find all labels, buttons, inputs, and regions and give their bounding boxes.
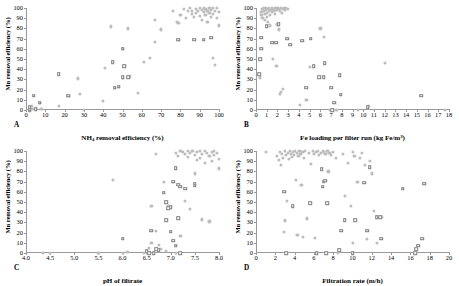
panel-a-data-point-circle bbox=[57, 104, 60, 107]
panel-a-data-point-circle bbox=[212, 13, 215, 16]
panel-d-y-tick bbox=[254, 212, 257, 213]
panel-a-data-point-circle bbox=[148, 56, 151, 59]
panel-c-x-tick-label: 6.5 bbox=[143, 255, 151, 261]
panel-a-x-tick-label: 100 bbox=[214, 112, 224, 118]
panel-d-data-point-square bbox=[326, 201, 330, 205]
panel-b-y-axis-label: Mn removal efficiency (%) bbox=[232, 6, 243, 102]
panel-b-data-point-square bbox=[289, 43, 293, 47]
panel-b-x-tick-label: 17 bbox=[435, 112, 441, 118]
panel-a-y-tick-label: 30 bbox=[17, 76, 23, 82]
panel-b-y-tick bbox=[254, 69, 257, 70]
panel-d-data-point-circle bbox=[327, 170, 330, 173]
panel-a-data-point-circle bbox=[215, 17, 218, 20]
panel-c-x-tick-label: 8.0 bbox=[215, 255, 223, 261]
panel-b-y-tick bbox=[254, 100, 257, 101]
panel-d-data-point-circle bbox=[365, 237, 368, 240]
panel-c-data-point-square bbox=[179, 251, 183, 255]
panel-a-data-point-square bbox=[38, 101, 42, 105]
panel-b-y-tick bbox=[254, 79, 257, 80]
panel-a-x-tick-label: 20 bbox=[61, 112, 67, 118]
panel-c-data-point-circle bbox=[162, 180, 165, 183]
panel-a-data-point-circle bbox=[77, 77, 80, 80]
panel-a-data-point-square bbox=[111, 60, 115, 64]
panel-b: Mn removal efficiency (%) 01020304050607… bbox=[230, 0, 459, 143]
panel-a-data-point-square bbox=[117, 85, 121, 89]
panel-a-data-point-circle bbox=[171, 9, 174, 12]
panel-c-y-tick-label: 60 bbox=[17, 189, 23, 195]
panel-b-x-tick-label: 13 bbox=[392, 112, 398, 118]
panel-c-y-tick bbox=[24, 212, 27, 213]
panel-b-x-tick-label: 9 bbox=[351, 112, 354, 118]
panel-a-data-point-circle bbox=[78, 92, 81, 95]
panel-d-data-point-square bbox=[351, 251, 355, 255]
panel-b-x-tick-label: 15 bbox=[414, 112, 420, 118]
panel-b-data-point-circle bbox=[268, 24, 271, 27]
panel-c-data-point-circle bbox=[191, 149, 194, 152]
panel-a-data-point-circle bbox=[215, 6, 218, 9]
panel-a-y-tick-label: 100 bbox=[13, 5, 23, 11]
panel-d-data-point-circle bbox=[361, 151, 364, 154]
panel-a-y-axis-label: Mn removal efficiency (%) bbox=[2, 6, 13, 102]
panel-d-data-point-square bbox=[422, 182, 426, 186]
panel-d-y-tick-label: 50 bbox=[247, 199, 253, 205]
panel-d-y-tick bbox=[254, 161, 257, 162]
panel-a-data-point-circle bbox=[109, 25, 112, 28]
panel-a-data-point-circle bbox=[102, 99, 105, 102]
panel-d-data-point-circle bbox=[285, 199, 288, 202]
panel-c-data-point-circle bbox=[186, 156, 189, 159]
panel-a-data-point-circle bbox=[154, 19, 157, 22]
panel-a-y-tick bbox=[24, 69, 27, 70]
panel-b-y-tick bbox=[254, 28, 257, 29]
panel-c-y-tick-label: 30 bbox=[17, 219, 23, 225]
panel-c-data-point-circle bbox=[193, 172, 196, 175]
panel-a-data-point-square bbox=[121, 47, 125, 51]
panel-b-data-point-circle bbox=[272, 57, 275, 60]
panel-d-data-point-circle bbox=[280, 152, 283, 155]
panel-d-data-point-circle bbox=[335, 157, 338, 160]
panel-b-y-tick-label: 40 bbox=[247, 66, 253, 72]
panel-c-data-point-circle bbox=[155, 152, 158, 155]
panel-a-data-point-circle bbox=[154, 40, 157, 43]
panel-c-y-tick bbox=[24, 202, 27, 203]
panel-c-x-axis-label: pH of filtrate bbox=[18, 277, 227, 285]
panel-d-y-tick-label: 0 bbox=[250, 250, 253, 256]
panel-d-data-point-circle bbox=[281, 157, 284, 160]
panel-c-data-point-square bbox=[169, 230, 173, 234]
panel-a-y-tick-label: 60 bbox=[17, 46, 23, 52]
panel-c-y-tick bbox=[24, 192, 27, 193]
panel-d-data-point-circle bbox=[304, 149, 307, 152]
panel-b-data-point-square bbox=[305, 86, 309, 90]
panel-c-y-tick bbox=[24, 171, 27, 172]
panel-b-x-tick-label: 1 bbox=[265, 112, 268, 118]
panel-c-data-point-circle bbox=[208, 220, 211, 223]
panel-c-data-point-circle bbox=[215, 151, 218, 154]
panel-d-data-point-square bbox=[420, 237, 424, 241]
panel-c-y-tick-label: 80 bbox=[17, 168, 23, 174]
panel-b-data-point-square bbox=[339, 93, 343, 97]
panel-d-y-tick bbox=[254, 243, 257, 244]
panel-b-x-tick-label: 8 bbox=[340, 112, 343, 118]
panel-b-data-point-square bbox=[270, 41, 274, 45]
panel-d-data-point-square bbox=[308, 201, 312, 205]
panel-c-data-point-square bbox=[171, 239, 175, 243]
panel-b-y-tick bbox=[254, 18, 257, 19]
panel-c-data-point-square bbox=[147, 251, 151, 255]
panel-a-y-tick bbox=[24, 59, 27, 60]
panel-d-y-tick bbox=[254, 192, 257, 193]
panel-b-y-tick bbox=[254, 49, 257, 50]
panel-d-data-point-circle bbox=[343, 194, 346, 197]
panel-b-data-point-square bbox=[260, 36, 264, 40]
panel-a-data-point-square bbox=[209, 36, 213, 40]
panel-d-data-point-circle bbox=[363, 164, 366, 167]
panel-c-y-tick-label: 40 bbox=[17, 209, 23, 215]
panel-c-data-point-circle bbox=[179, 234, 182, 237]
panel-b-data-point-square bbox=[300, 39, 304, 43]
panel-b-data-point-square bbox=[277, 23, 281, 27]
panel-a-y-tick-label: 0 bbox=[20, 107, 23, 113]
panel-a-data-point-circle bbox=[136, 91, 139, 94]
panel-c-y-tick bbox=[24, 151, 27, 152]
panel-b-x-axis-label: Fe loading per filter run (kg Fe/m3) bbox=[248, 134, 457, 142]
panel-d-x-tick-label: 0 bbox=[254, 255, 257, 261]
panel-b-x-tick-label: 3 bbox=[287, 112, 290, 118]
panel-c-data-point-circle bbox=[210, 160, 213, 163]
